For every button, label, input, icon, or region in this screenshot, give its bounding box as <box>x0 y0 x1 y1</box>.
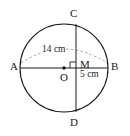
center-point-dot <box>62 66 65 69</box>
geometry-figure: A B C D O M 14 cm 5 cm <box>0 0 130 136</box>
point-label-o: O <box>60 72 68 83</box>
point-label-c: C <box>70 8 77 19</box>
point-label-a: A <box>10 61 18 72</box>
point-label-d: D <box>70 117 78 128</box>
segment-dimension-label: 5 cm <box>79 70 100 80</box>
point-label-b: B <box>111 61 118 72</box>
right-angle-marker <box>70 62 76 68</box>
radius-dimension-label: 14 cm <box>41 45 66 55</box>
